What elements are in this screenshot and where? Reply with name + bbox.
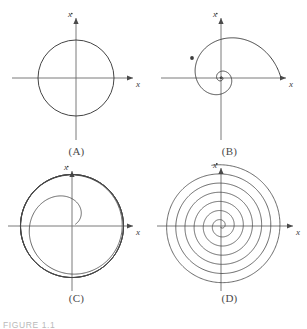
outward-spiral-curve: [167, 165, 280, 283]
x-axis-label: x: [135, 227, 140, 237]
figure-caption: FIGURE 1.1: [3, 320, 55, 329]
y-axis-arrow-icon: [218, 168, 223, 174]
xdot-axis-label: x: [212, 163, 217, 170]
panel-b: x x (B): [153, 0, 306, 163]
xdot-axis-label: x: [67, 9, 72, 19]
inward-spiral-curve: [195, 38, 281, 95]
x-axis-label: x: [295, 227, 300, 237]
panel-b-label: (B): [153, 145, 306, 157]
trajectory-arrow-marker-icon: [190, 56, 194, 60]
y-axis-arrow-icon: [73, 18, 78, 24]
x-axis-label: x: [288, 79, 293, 89]
x-axis-arrow-icon: [287, 223, 293, 228]
x-axis-arrow-icon: [127, 75, 133, 80]
panel-c-label: (C): [0, 292, 153, 304]
panel-b-plot: x x: [153, 0, 306, 163]
y-axis-arrow-icon: [218, 18, 223, 24]
panel-d-label: (D): [153, 292, 306, 304]
x-axis-arrow-icon: [127, 223, 133, 228]
x-axis-label: x: [135, 79, 140, 89]
panel-a: x x (A): [0, 0, 153, 163]
y-axis-arrow-icon: [69, 171, 74, 177]
panel-a-label: (A): [0, 145, 153, 157]
xdot-axis-label: x: [63, 163, 68, 172]
xdot-axis-label: x: [212, 9, 217, 19]
panel-c: x x (C): [0, 163, 153, 326]
panel-a-plot: x x: [0, 0, 153, 163]
panel-d: x x (D): [153, 163, 306, 326]
